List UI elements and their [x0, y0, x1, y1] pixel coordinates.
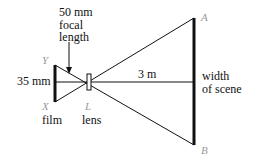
- lens-shape: [87, 74, 91, 90]
- ray-Y-to-B: [55, 65, 194, 145]
- film-label: film: [42, 113, 63, 127]
- lens-label: lens: [82, 113, 102, 127]
- focal-arrow-head: [66, 67, 72, 74]
- point-L-label: L: [84, 100, 91, 112]
- focal-label-line3: length: [59, 30, 89, 44]
- scene-width-label-line1: width: [202, 69, 229, 83]
- point-Y-label: Y: [42, 54, 50, 66]
- focal-label-line1: 50 mm: [59, 5, 93, 19]
- point-B-label: B: [201, 144, 208, 156]
- distance-label: 3 m: [138, 67, 157, 81]
- scene-width-label-line2: of scene: [202, 82, 242, 96]
- point-A-label: A: [200, 11, 208, 23]
- camera-optics-diagram: 50 mm focal length 35 mm film lens 3 m w…: [0, 0, 257, 166]
- film-height-label: 35 mm: [17, 74, 51, 88]
- point-X-label: X: [41, 100, 50, 112]
